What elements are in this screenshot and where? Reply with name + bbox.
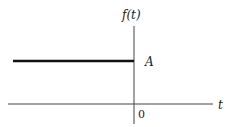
signal-diagram: f(t) t 0 A [0, 0, 234, 127]
y-axis-label: f(t) [121, 8, 141, 22]
origin-label: 0 [138, 108, 145, 121]
level-label: A [144, 55, 154, 69]
x-axis-label: t [218, 98, 223, 112]
